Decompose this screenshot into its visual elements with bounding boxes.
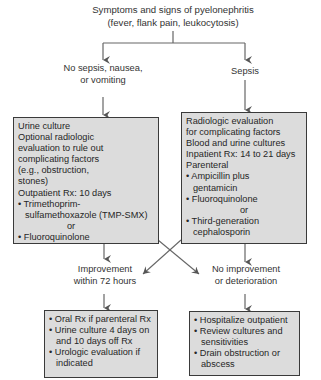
box-line: Urine culture <box>18 121 154 132</box>
bullet-oral-rx: • Oral Rx if parenteral Rx <box>49 314 153 325</box>
box-line: Blood and urine cultures <box>186 138 302 149</box>
no-improvement-label: No improvement or deterioration <box>196 264 296 287</box>
no-sepsis-label: No sepsis, nausea, or vomiting <box>48 63 158 86</box>
box-line: Inpatient Rx: 14 to 21 days <box>186 149 302 160</box>
bullet-urologic-eval: • Urologic evaluation if <box>49 347 153 358</box>
bullet-fluoroquinolone: • Fluoroquinolone <box>186 194 302 205</box>
box-line: for complicating factors <box>186 127 302 138</box>
title-line-1: Symptoms and signs of pyelonephritis <box>70 4 276 17</box>
title-line-2: (fever, flank pain, leukocytosis) <box>70 17 276 30</box>
improvement-line-2: within 72 hours <box>60 276 150 288</box>
inpatient-treatment-box: Radiologic evaluation for complicating f… <box>181 112 307 244</box>
bullet-ampicillin-cont: gentamicin <box>186 183 302 194</box>
no-sepsis-line-2: or vomiting <box>48 75 158 87</box>
bullet-review-cultures: • Review cultures and <box>194 326 295 337</box>
bullet-fluoroquinolone: • Fluoroquinolone <box>18 232 154 243</box>
bullet-third-gen: • Third-generation <box>186 216 302 227</box>
sepsis-label: Sepsis <box>215 66 275 78</box>
bullet-tmp-smx-cont: sulfamethoxazole (TMP-SMX) <box>18 210 154 221</box>
bullet-tmp-smx: • Trimethoprim- <box>18 199 154 210</box>
box-line: Outpatient Rx: 10 days <box>18 188 154 199</box>
box-line: Optional radiologic <box>18 132 154 143</box>
box-line: Parenteral <box>186 160 302 171</box>
improvement-actions-box: • Oral Rx if parenteral Rx • Urine cultu… <box>44 310 158 378</box>
bullet-drain: • Drain obstruction or <box>194 348 295 359</box>
outpatient-treatment-box: Urine culture Optional radiologic evalua… <box>13 117 159 244</box>
bullet-third-gen-cont: cephalosporin <box>186 227 302 238</box>
bullet-urologic-eval-cont: indicated <box>49 358 153 369</box>
box-line: Radiologic evaluation <box>186 116 302 127</box>
bullet-urine-culture: • Urine culture 4 days on <box>49 325 153 336</box>
box-line: evaluation to rule out <box>18 143 154 154</box>
no-sepsis-line-1: No sepsis, nausea, <box>48 63 158 75</box>
improvement-line-1: Improvement <box>60 264 150 276</box>
improvement-label: Improvement within 72 hours <box>60 264 150 287</box>
or-connector: or <box>18 221 154 232</box>
box-line: stones) <box>18 176 154 187</box>
bullet-urine-culture-cont: and 10 days off Rx <box>49 336 153 347</box>
or-connector: or <box>186 205 302 216</box>
diagram-title: Symptoms and signs of pyelonephritis (fe… <box>70 4 276 29</box>
bullet-ampicillin: • Ampicillin plus <box>186 171 302 182</box>
bullet-hospitalize: • Hospitalize outpatient <box>194 315 295 326</box>
no-improvement-line-2: or deterioration <box>196 276 296 288</box>
deterioration-actions-box: • Hospitalize outpatient • Review cultur… <box>189 311 300 376</box>
box-line: (e.g., obstruction, <box>18 165 154 176</box>
no-improvement-line-1: No improvement <box>196 264 296 276</box>
bullet-review-cultures-cont: sensitivities <box>194 337 295 348</box>
bullet-drain-cont: abscess <box>194 359 295 370</box>
box-line: complicating factors <box>18 154 154 165</box>
